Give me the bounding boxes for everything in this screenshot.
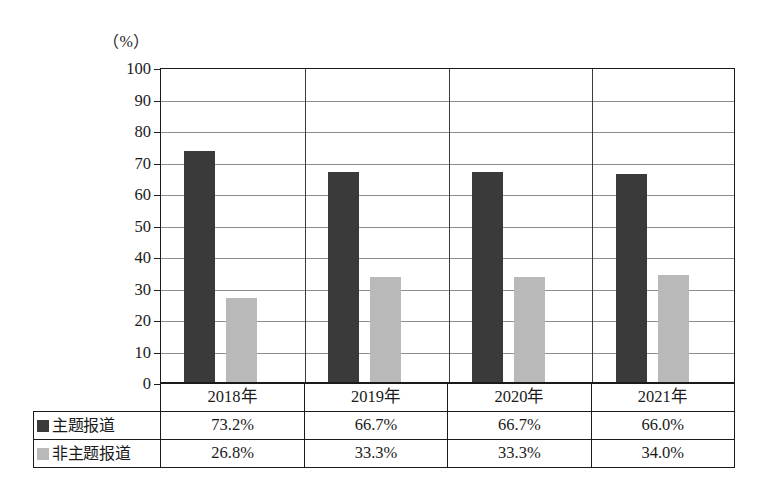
y-axis-unit-label: （%） <box>103 28 150 52</box>
y-axis-tick <box>154 353 161 354</box>
bar-2018年-主题报道 <box>184 151 215 382</box>
y-axis-tick-label: 100 <box>126 61 151 78</box>
gridline <box>161 195 734 196</box>
table-corner-cell <box>34 384 161 412</box>
y-axis-tick-label: 80 <box>135 124 152 141</box>
y-axis-tick-label: 70 <box>135 155 152 172</box>
y-axis-tick <box>154 164 161 165</box>
y-axis-tick <box>154 69 161 70</box>
table-cell: 66.0% <box>591 412 734 440</box>
table-column-header: 2021年 <box>591 384 734 412</box>
y-axis-tick <box>154 227 161 228</box>
table-column-header: 2020年 <box>448 384 591 412</box>
gridline <box>161 132 734 133</box>
table-column-header: 2018年 <box>161 384 304 412</box>
y-axis-tick <box>154 195 161 196</box>
table-row: 主题报道 73.2% 66.7% 66.7% 66.0% <box>34 412 735 440</box>
gridline <box>161 164 734 165</box>
y-axis-tick-label: 30 <box>135 281 152 298</box>
table-cell: 66.7% <box>448 412 591 440</box>
y-axis-tick-label: 50 <box>135 218 152 235</box>
category-divider <box>449 69 450 382</box>
y-axis-tick-label: 10 <box>135 344 152 361</box>
y-axis-tick <box>154 132 161 133</box>
y-axis-tick <box>154 321 161 322</box>
y-axis-tick-label: 60 <box>135 187 152 204</box>
table-cell: 73.2% <box>161 412 304 440</box>
legend-item-series-2: 非主题报道 <box>34 440 161 468</box>
bar-2019年-非主题报道 <box>370 277 401 382</box>
bar-2020年-主题报道 <box>472 172 503 382</box>
gridline <box>161 258 734 259</box>
gridline <box>161 290 734 291</box>
gridline <box>161 101 734 102</box>
y-axis-tick <box>154 258 161 259</box>
table-cell: 34.0% <box>591 440 734 468</box>
y-axis-tick-label: 40 <box>135 250 152 267</box>
bar-2018年-非主题报道 <box>226 298 257 382</box>
bar-2021年-主题报道 <box>616 174 647 382</box>
legend-swatch-icon <box>37 420 49 432</box>
table-cell: 33.3% <box>448 440 591 468</box>
chart-plot-area: 0102030405060708090100 <box>160 68 735 383</box>
table-column-header: 2019年 <box>304 384 447 412</box>
table-cell: 26.8% <box>161 440 304 468</box>
y-axis-tick-label: 90 <box>135 92 152 109</box>
legend-item-series-1: 主题报道 <box>34 412 161 440</box>
bar-2019年-主题报道 <box>328 172 359 382</box>
y-axis-tick-label: 20 <box>135 313 152 330</box>
bar-2020年-非主题报道 <box>514 277 545 382</box>
table-header-row: 2018年 2019年 2020年 2021年 <box>34 384 735 412</box>
table-row: 非主题报道 26.8% 33.3% 33.3% 34.0% <box>34 440 735 468</box>
y-axis-tick <box>154 290 161 291</box>
legend-label: 主题报道 <box>52 417 115 434</box>
table-cell: 66.7% <box>304 412 447 440</box>
table-cell: 33.3% <box>304 440 447 468</box>
legend-label: 非主题报道 <box>52 445 131 462</box>
category-divider <box>305 69 306 382</box>
gridline <box>161 227 734 228</box>
data-table: 2018年 2019年 2020年 2021年 主题报道 73.2% 66.7%… <box>33 383 735 468</box>
y-axis-tick <box>154 101 161 102</box>
legend-swatch-icon <box>37 448 49 460</box>
category-divider <box>592 69 593 382</box>
bar-2021年-非主题报道 <box>658 275 689 382</box>
